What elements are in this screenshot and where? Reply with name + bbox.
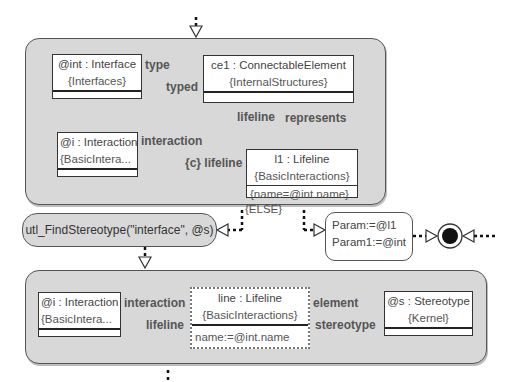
object-title: @i : Interaction: [58, 133, 137, 151]
link-role-lifeline-bottom: lifeline: [146, 318, 184, 332]
start-arrow-icon: [190, 26, 202, 37]
object-i-interaction-bottom[interactable]: @i : Interaction {BasicIntera...: [38, 292, 121, 337]
object-package: {InternalStructures}: [204, 74, 353, 91]
object-separator: [58, 168, 137, 174]
statement-node[interactable]: utl_FindStereotype("interface", @s): [22, 213, 217, 247]
object-attribute: {name=@int.name}: [247, 185, 357, 203]
link-role-c-lifeline: {c} lifeline: [185, 156, 242, 170]
param-line: Param1:=@int: [332, 234, 406, 251]
object-separator: [39, 328, 120, 334]
object-title: @int : Interface: [53, 55, 141, 73]
object-ce1-connectable-element[interactable]: ce1 : ConnectableElement {InternalStruct…: [203, 55, 354, 103]
object-separator: [204, 91, 353, 97]
link-role-typed: typed: [166, 80, 198, 94]
object-line-lifeline-create[interactable]: line : Lifeline {BasicInteractions} name…: [190, 287, 310, 349]
else-guard-label: {ELSE}: [245, 203, 282, 215]
link-role-stereotype: stereotype: [315, 318, 376, 332]
object-package: {BasicInteractions}: [247, 168, 357, 185]
object-i-interaction-top[interactable]: @i : Interaction {BasicIntera...: [57, 132, 138, 177]
object-package: {BasicIntera...: [39, 311, 120, 328]
object-int-interface[interactable]: @int : Interface {Interfaces}: [52, 54, 142, 99]
link-role-type: type: [145, 58, 170, 72]
link-role-interaction-bottom: interaction: [124, 296, 185, 310]
object-package: {BasicIntera...: [58, 151, 137, 168]
object-title: l1 : Lifeline: [247, 150, 357, 168]
object-title: line : Lifeline: [192, 289, 308, 307]
statement-text: utl_FindStereotype("interface", @s): [25, 223, 213, 237]
param-node[interactable]: Param:=@l1 Param1:=@int: [325, 212, 413, 261]
link-role-lifeline: lifeline: [237, 110, 275, 124]
object-l1-lifeline[interactable]: l1 : Lifeline {BasicInteractions} {name=…: [246, 149, 358, 198]
object-separator: [385, 327, 472, 333]
object-package: {BasicInteractions}: [192, 307, 308, 324]
link-role-interaction: interaction: [141, 134, 202, 148]
object-package: {Interfaces}: [53, 73, 141, 90]
param-line: Param:=@l1: [332, 217, 406, 234]
object-separator: [53, 90, 141, 96]
stop-node-icon: [438, 224, 462, 248]
link-role-element: element: [313, 296, 358, 310]
object-attribute: name:=@int.name: [192, 326, 308, 346]
object-s-stereotype[interactable]: @s : Stereotype {Kernel}: [384, 291, 473, 336]
object-title: @i : Interaction: [39, 293, 120, 311]
object-title: ce1 : ConnectableElement: [204, 56, 353, 74]
link-role-represents: represents: [285, 111, 346, 125]
object-package: {Kernel}: [385, 310, 472, 327]
object-title: @s : Stereotype: [385, 292, 472, 310]
